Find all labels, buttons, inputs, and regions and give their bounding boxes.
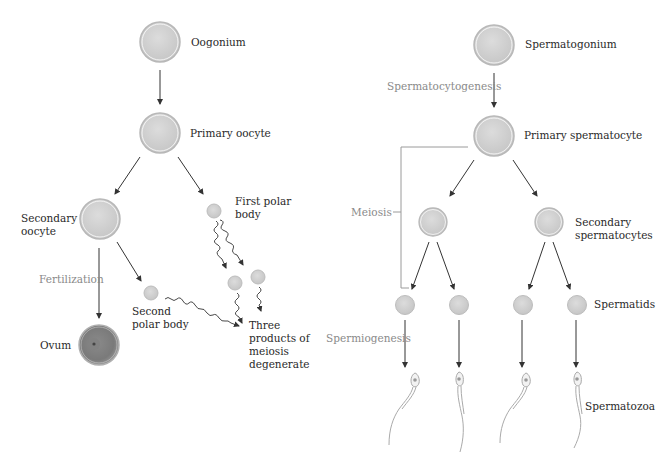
label-secondary-spermatocytes-line1: Secondary (575, 216, 631, 229)
cell-secondary-spermatocyte-right (535, 208, 563, 236)
label-secondary-spermatocytes-line2: spermatocytes (575, 229, 653, 242)
label-secondary-oocyte-line1: Secondary (21, 212, 77, 225)
wavy-arrow-product-1 (235, 293, 242, 323)
arrow-secondary-to-second-polar (117, 242, 141, 281)
cell-oogonium (140, 22, 180, 62)
cell-polar-body-product-2 (251, 270, 265, 284)
label-spermatozoa: Spermatozoa (585, 400, 655, 413)
arrow-primary-to-secondary-left (450, 160, 474, 196)
arrow-primary-to-first-polar (178, 157, 203, 194)
cell-secondary-spermatocyte-left (419, 208, 447, 236)
cell-secondary-oocyte (80, 199, 120, 239)
cell-second-polar-body (144, 286, 158, 300)
arrow-sec-left-to-spermatid-1 (412, 242, 429, 289)
label-primary-oocyte: Primary oocyte (190, 127, 271, 140)
wavy-arrow-first-polar-b (220, 220, 243, 265)
spermatozoon-4 (574, 372, 582, 448)
label-spermatids: Spermatids (594, 298, 655, 311)
label-ovum: Ovum (40, 339, 71, 352)
label-secondary-oocyte-line2: oocyte (21, 225, 56, 238)
arrow-sec-right-to-spermatid-4 (553, 242, 570, 289)
label-first-polar-body-line1: First polar (235, 195, 291, 208)
cell-spermatid-3 (514, 296, 533, 315)
cell-spermatid-4 (568, 296, 587, 315)
label-primary-spermatocyte: Primary spermatocyte (524, 129, 642, 142)
cell-first-polar-body (207, 204, 221, 218)
label-meiosis: Meiosis (351, 206, 392, 219)
label-first-polar-body-line2: body (235, 208, 261, 221)
label-second-polar-body-line2: polar body (132, 318, 189, 331)
label-degenerate-line3: meiosis (249, 345, 289, 358)
cell-spermatogonium (474, 25, 514, 65)
cell-primary-oocyte (140, 113, 180, 153)
label-degenerate-line1: Three (249, 319, 280, 332)
cell-polar-body-product-1 (228, 276, 242, 290)
label-second-polar-body-line1: Second (132, 305, 171, 318)
arrow-sec-left-to-spermatid-2 (437, 242, 454, 289)
label-spermatogonium: Spermatogonium (525, 38, 617, 51)
arrow-sec-right-to-spermatid-3 (529, 242, 545, 289)
cell-primary-spermatocyte (474, 116, 514, 156)
cell-ovum (79, 325, 119, 365)
arrow-primary-to-secondary-right (513, 160, 537, 196)
cell-spermatid-1 (396, 296, 415, 315)
label-fertilization: Fertilization (39, 273, 104, 286)
label-spermatocytogenesis: Spermatocytogenesis (387, 80, 501, 93)
label-degenerate-line4: degenerate (249, 358, 310, 371)
label-oogonium: Oogonium (191, 36, 246, 49)
label-degenerate-line2: products of (249, 332, 310, 345)
arrow-primary-to-secondary (115, 157, 140, 194)
label-spermiogenesis: Spermiogenesis (326, 332, 411, 345)
wavy-arrow-first-polar-a (214, 221, 226, 268)
spermatozoon-2 (456, 372, 464, 452)
wavy-arrow-product-2 (257, 287, 261, 311)
spermatozoon-1 (389, 373, 419, 445)
cell-spermatid-2 (450, 296, 469, 315)
spermatozoon-3 (500, 373, 530, 443)
gametogenesis-diagram (0, 0, 666, 466)
